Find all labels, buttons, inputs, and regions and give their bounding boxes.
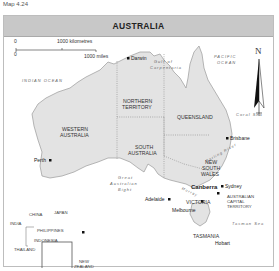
scale-bar (16, 48, 96, 52)
vic-label: VICTORIA (186, 199, 210, 205)
tasman-sea-label: Tasman Sea (232, 221, 264, 226)
map-frame: AUSTRALIA (3, 15, 274, 267)
city-melbourne: Melbourne (172, 207, 196, 213)
tasmania-island (190, 202, 210, 226)
city-brisbane: Brisbane (230, 135, 250, 141)
sa-label-2: AUSTRALIA (128, 150, 157, 156)
city-darwin: Darwin (131, 55, 147, 61)
north-arrow (254, 59, 264, 116)
city-hobart: Hobart (215, 240, 230, 246)
city-adelaide: Adelaide (145, 196, 164, 202)
nsw-label-3: WALES (201, 171, 219, 177)
inset-box (42, 242, 72, 268)
scale-mi-zero: 0 (14, 51, 17, 57)
inset-japan: JAPAN (54, 210, 68, 215)
inset-philippines: PHILIPPINES (37, 228, 64, 233)
bight-label-2: Australian (110, 181, 138, 186)
gulf-label-1: Gulf of (154, 59, 173, 64)
inset-nz-2: ZEALAND (74, 264, 94, 269)
scale-km-label: 1000 kilometres (57, 38, 92, 44)
compass-north-label: N (255, 46, 262, 56)
qld-label: QUEENSLAND (177, 114, 213, 120)
indian-ocean-label: INDIAN OCEAN (22, 78, 63, 83)
act-label-3: TERRITORY (227, 204, 252, 209)
city-sydney: Sydney (225, 183, 242, 189)
inset-china: CHINA (29, 212, 42, 217)
map-caption: Map 4.24 (3, 1, 28, 7)
inset-india: INDIA (10, 221, 21, 226)
city-canberra: Canberra (191, 184, 217, 190)
bight-label-3: Bight (118, 187, 132, 192)
city-perth: Perth (34, 157, 46, 163)
inset-thailand: THAILAND (14, 247, 35, 252)
scale-km-zero: 0 (14, 38, 17, 44)
wa-label-2: AUSTRALIA (60, 132, 89, 138)
gulf-label-2: Carpentaria (150, 65, 182, 70)
tas-label: TASMANIA (193, 233, 219, 239)
nt-label-2: TERRITORY (122, 104, 152, 110)
pacific-ocean-label-2: OCEAN (217, 60, 236, 65)
scale-mi-label: 1000 miles (84, 53, 108, 59)
coral-sea-label: Coral Sea (236, 112, 263, 117)
pacific-ocean-label-1: PACIFIC (214, 54, 236, 59)
inset-indonesia: INDONESIA (34, 238, 58, 243)
bight-label-1: Great (118, 175, 133, 180)
